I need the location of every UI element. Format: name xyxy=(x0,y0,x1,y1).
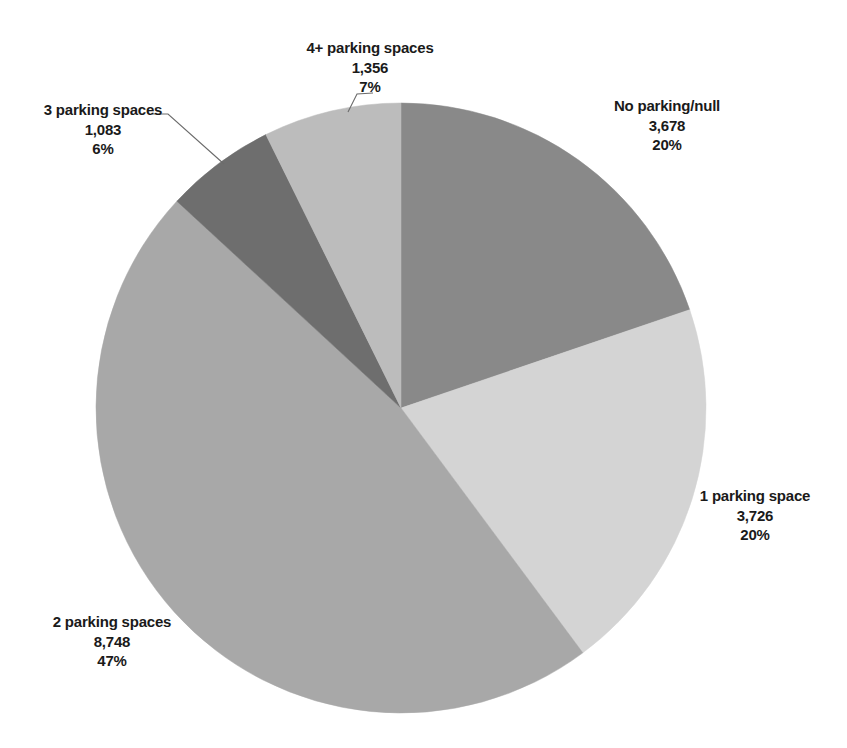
pie-label-value: 3,678 xyxy=(567,116,767,136)
pie-label-percent: 6% xyxy=(8,139,198,159)
pie-label-name: 4+ parking spaces xyxy=(270,38,470,58)
pie-label-value: 1,356 xyxy=(270,58,470,78)
pie-label-1-parking-space: 1 parking space 3,726 20% xyxy=(670,486,840,545)
pie-label-value: 8,748 xyxy=(12,632,212,652)
pie-label-value: 3,726 xyxy=(670,506,840,526)
pie-label-percent: 7% xyxy=(270,77,470,97)
pie-label-name: No parking/null xyxy=(567,96,767,116)
pie-label-percent: 20% xyxy=(567,135,767,155)
pie-label-3-parking-spaces: 3 parking spaces 1,083 6% xyxy=(8,100,198,159)
pie-label-name: 1 parking space xyxy=(670,486,840,506)
pie-label-name: 2 parking spaces xyxy=(12,612,212,632)
pie-label-percent: 20% xyxy=(670,525,840,545)
pie-label-percent: 47% xyxy=(12,651,212,671)
pie-label-value: 1,083 xyxy=(8,120,198,140)
pie-label-no-parking-null: No parking/null 3,678 20% xyxy=(567,96,767,155)
pie-label-2-parking-spaces: 2 parking spaces 8,748 47% xyxy=(12,612,212,671)
pie-label-4plus-parking-spaces: 4+ parking spaces 1,356 7% xyxy=(270,38,470,97)
pie-chart-canvas: No parking/null 3,678 20% 1 parking spac… xyxy=(0,0,847,748)
pie-label-name: 3 parking spaces xyxy=(8,100,198,120)
